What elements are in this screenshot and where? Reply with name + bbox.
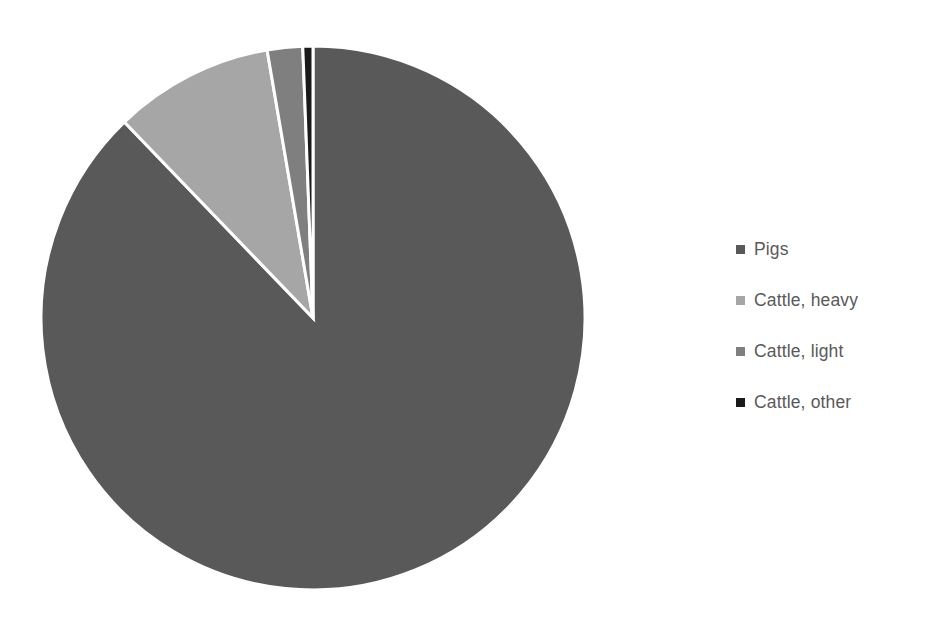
legend-item-cattle-heavy[interactable]: Cattle, heavy xyxy=(736,275,936,326)
legend-item-label: Pigs xyxy=(754,241,789,259)
legend-item-label: Cattle, light xyxy=(754,343,844,361)
legend-item-label: Cattle, heavy xyxy=(754,292,858,310)
pie-slice-group xyxy=(41,46,585,590)
legend-item-label: Cattle, other xyxy=(754,394,851,412)
legend-item-cattle-other[interactable]: Cattle, other xyxy=(736,377,936,428)
legend-item-pigs[interactable]: Pigs xyxy=(736,224,936,275)
legend-item-cattle-light[interactable]: Cattle, light xyxy=(736,326,936,377)
pie-chart-figure: Pigs Cattle, heavy Cattle, light Cattle,… xyxy=(0,0,939,618)
pie-svg xyxy=(0,0,640,618)
legend-marker-icon xyxy=(736,296,745,305)
pie-plot-area xyxy=(0,0,640,618)
legend-marker-icon xyxy=(736,347,745,356)
chart-legend: Pigs Cattle, heavy Cattle, light Cattle,… xyxy=(736,224,936,428)
legend-marker-icon xyxy=(736,398,745,407)
legend-marker-icon xyxy=(736,245,745,254)
